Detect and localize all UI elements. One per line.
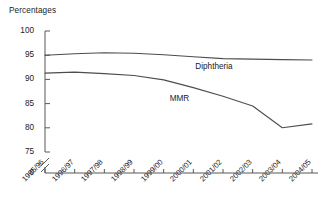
series-group xyxy=(45,53,312,128)
chart-root: Percentages 10095908580750 1995/961996/9… xyxy=(0,0,336,201)
series-label-diphtheria: Diphtheria xyxy=(195,62,232,71)
plot-area xyxy=(0,0,336,201)
series-label-mmr: MMR xyxy=(170,94,190,103)
series-line-diphtheria xyxy=(45,53,312,60)
